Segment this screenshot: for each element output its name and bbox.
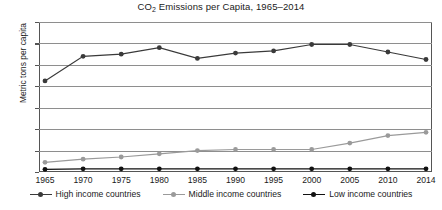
data-point xyxy=(157,166,162,171)
data-point xyxy=(386,50,391,55)
legend-marker-icon xyxy=(303,190,325,198)
x-tick-label: 1980 xyxy=(139,175,179,185)
data-point xyxy=(81,54,86,59)
legend-item[interactable]: Low income countries xyxy=(303,189,412,199)
data-point xyxy=(309,166,314,171)
data-point xyxy=(347,42,352,47)
x-tick-label: 1975 xyxy=(101,175,141,185)
data-point xyxy=(271,166,276,171)
data-point xyxy=(347,166,352,171)
data-point xyxy=(81,157,86,162)
x-tick-label: 1990 xyxy=(216,175,256,185)
y-axis-label: Metric tons per capita xyxy=(18,0,28,128)
x-tick-label: 2014 xyxy=(406,175,442,185)
data-point xyxy=(233,51,238,56)
data-point xyxy=(309,42,314,47)
chart-legend: High income countriesMiddle income count… xyxy=(0,189,442,199)
data-point xyxy=(157,151,162,156)
data-point xyxy=(424,166,429,171)
y-tick-mark xyxy=(35,172,39,173)
data-point xyxy=(43,160,48,165)
chart-title-subscript: 2 xyxy=(152,6,156,13)
data-point xyxy=(119,155,124,160)
data-point xyxy=(424,57,429,62)
data-point xyxy=(81,166,86,171)
data-point xyxy=(309,147,314,152)
x-tick-label: 1995 xyxy=(254,175,294,185)
legend-item[interactable]: High income countries xyxy=(30,189,141,199)
data-point xyxy=(386,133,391,138)
series-line xyxy=(45,45,426,81)
x-tick-label: 2005 xyxy=(330,175,370,185)
series-lines xyxy=(39,22,432,172)
data-point xyxy=(43,79,48,84)
data-point xyxy=(119,166,124,171)
data-point xyxy=(195,56,200,61)
chart-title-prefix: CO xyxy=(138,1,152,12)
data-point xyxy=(271,147,276,152)
data-point xyxy=(424,130,429,135)
chart-container: CO2 Emissions per Capita, 1965–2014 Metr… xyxy=(0,0,442,210)
data-point xyxy=(195,148,200,153)
chart-title-rest: Emissions per Capita, 1965–2014 xyxy=(156,1,304,12)
data-point xyxy=(195,166,200,171)
data-point xyxy=(386,166,391,171)
legend-label: High income countries xyxy=(56,189,141,199)
x-tick-label: 1985 xyxy=(177,175,217,185)
data-point xyxy=(157,45,162,50)
data-point xyxy=(43,167,48,172)
x-tick-label: 1970 xyxy=(63,175,103,185)
legend-label: Low income countries xyxy=(329,189,412,199)
x-tick-label: 2000 xyxy=(292,175,332,185)
chart-title: CO2 Emissions per Capita, 1965–2014 xyxy=(0,1,442,12)
data-point xyxy=(233,147,238,152)
data-point xyxy=(271,49,276,54)
plot-area: 02468101214 1965197019751980198519901995… xyxy=(39,22,432,172)
legend-item[interactable]: Middle income countries xyxy=(163,189,282,199)
data-point xyxy=(233,166,238,171)
legend-label: Middle income countries xyxy=(189,189,282,199)
data-point xyxy=(347,141,352,146)
data-point xyxy=(119,52,124,57)
legend-marker-icon xyxy=(30,190,52,198)
x-tick-label: 2010 xyxy=(368,175,408,185)
x-tick-label: 1965 xyxy=(25,175,65,185)
legend-marker-icon xyxy=(163,190,185,198)
